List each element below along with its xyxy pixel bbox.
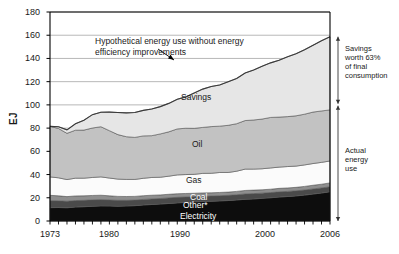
series-label-gas: Gas — [186, 175, 202, 185]
series-label-other: Other* — [183, 200, 208, 210]
annotation-savings-bracket-line1: Savings — [345, 44, 372, 53]
series-label-oil: Oil — [192, 139, 202, 149]
annotation-savings-bracket-line2: worth 63% — [345, 53, 380, 62]
annotation-actual-bracket-line2: energy — [345, 155, 368, 164]
annotation-savings-bracket-line4: consumption — [345, 71, 388, 80]
y-tick-label-100: 100 — [12, 100, 40, 111]
bracket-actual-energy-use-cap-bottom — [336, 217, 340, 221]
figure-energy-savings-chart: EJ 180 160 140 120 100 80 60 40 20 0 197… — [0, 0, 399, 254]
x-tick-label-1980: 1980 — [89, 229, 129, 240]
bracket-savings-cap-bottom — [336, 100, 340, 104]
x-tick-label-1973: 1973 — [30, 229, 70, 240]
y-tick-label-0: 0 — [12, 216, 40, 227]
bracket-actual-energy-use-cap-top — [336, 106, 340, 110]
y-tick-label-140: 140 — [12, 53, 40, 64]
y-tick-label-180: 180 — [12, 7, 40, 18]
series-label-savings: Savings — [181, 92, 211, 102]
annotation-hypothetical-line2: efficiency improvements — [95, 47, 186, 57]
y-tick-label-80: 80 — [12, 123, 40, 134]
bracket-savings-cap-top — [336, 37, 340, 41]
y-tick-label-160: 160 — [12, 30, 40, 41]
x-tick-label-2000: 2000 — [245, 229, 285, 240]
annotation-actual-bracket-line3: use — [345, 164, 357, 173]
annotation-hypothetical-line1: Hypothetical energy use without energy — [95, 36, 244, 46]
annotation-actual-bracket-line1: Actual — [345, 146, 366, 155]
series-label-electricity: Electricity — [180, 211, 216, 221]
annotation-savings-bracket-line3: of final — [345, 62, 367, 71]
figure-caption — [4, 243, 396, 253]
y-tick-label-120: 120 — [12, 77, 40, 88]
x-tick-label-1990: 1990 — [160, 229, 200, 240]
y-tick-label-40: 40 — [12, 170, 40, 181]
y-tick-label-60: 60 — [12, 146, 40, 157]
y-tick-label-20: 20 — [12, 193, 40, 204]
x-tick-label-2006: 2006 — [310, 229, 350, 240]
